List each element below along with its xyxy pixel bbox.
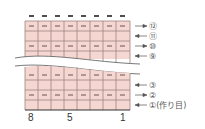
row-label-2: ② xyxy=(149,91,156,100)
row-label-10: ⑩ xyxy=(149,42,156,51)
row-label-12: ⑫ xyxy=(149,22,157,31)
column-label-8: 8 xyxy=(28,112,34,123)
knitting-chart: ⑫ ⑪ ⑩ ⑨ ③ ② ①(作り目) 8 5 1 xyxy=(0,0,205,129)
column-label-5: 5 xyxy=(67,112,73,123)
row-label-1-cast-on: ①(作り目) xyxy=(149,100,186,110)
column-label-1: 1 xyxy=(120,112,126,123)
row-label-9: ⑨ xyxy=(149,52,156,61)
row-label-3: ③ xyxy=(149,81,156,90)
row-label-11: ⑪ xyxy=(149,32,157,41)
